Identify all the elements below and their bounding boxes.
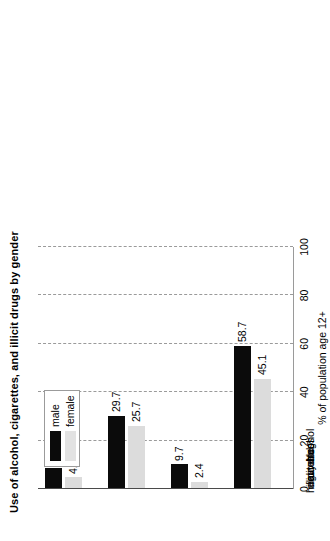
bar-cigarettes-female: [128, 426, 145, 488]
tick-0: 0: [298, 486, 310, 492]
tick-80: 80: [298, 290, 310, 302]
bar-alcohol-female: [254, 379, 271, 488]
legend-swatch-male: [50, 431, 61, 461]
chart-title: Use of alcohol, cigarettes, and illicit …: [8, 231, 20, 513]
chart-figure: Use of alcohol, cigarettes, and illicit …: [0, 0, 330, 541]
gridline-80: [38, 294, 293, 295]
tick-100: 100: [298, 238, 310, 256]
bar-illicit-drugs-male: [45, 468, 62, 488]
value-label-heavy-alcohol-male: 9.7: [174, 446, 185, 461]
tick-20: 20: [298, 435, 310, 447]
bar-illicit-drugs-female: [65, 477, 82, 488]
bar-heavy-alcohol-female: [191, 482, 208, 488]
legend-label-male: male: [50, 404, 61, 427]
bar-heavy-alcohol-male: [171, 465, 188, 489]
legend-swatch-female: [65, 431, 76, 461]
category-axis-line: [293, 247, 294, 489]
value-axis-baseline: [38, 488, 293, 489]
value-label-heavy-alcohol-female: 2.4: [194, 463, 205, 478]
gridline-60: [38, 343, 293, 344]
value-label-cigarettes-female: 25.7: [131, 402, 142, 422]
value-label-alcohol-male: 58.7: [237, 322, 248, 342]
legend-label-female: female: [65, 395, 76, 427]
tick-40: 40: [298, 386, 310, 398]
tick-60: 60: [298, 338, 310, 350]
bar-alcohol-male: [234, 346, 251, 488]
bar-cigarettes-male: [108, 416, 125, 488]
value-label-alcohol-female: 45.1: [257, 355, 268, 375]
value-axis-title: % of population age 12+: [316, 311, 328, 425]
gridline-100: [38, 246, 293, 247]
legend: male female: [44, 390, 80, 467]
value-label-cigarettes-male: 29.7: [111, 392, 122, 412]
